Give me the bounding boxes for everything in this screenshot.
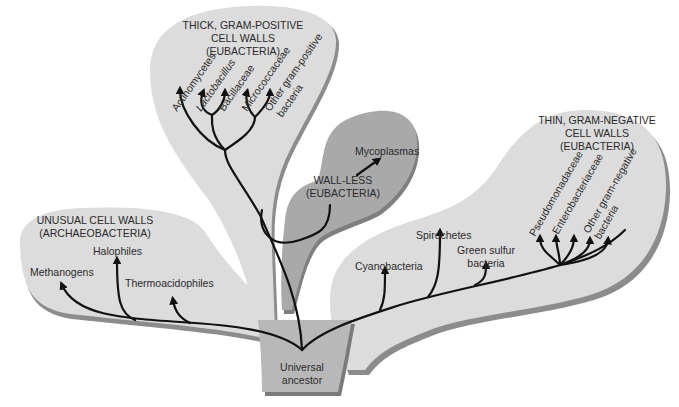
taxon-cyanobacteria: Cyanobacteria: [355, 260, 423, 272]
gram-positive-header-line1: THICK, GRAM-POSITIVE: [183, 19, 304, 31]
wall-less-header-line2: (EUBACTERIA): [306, 187, 380, 199]
taxon-green-sulfur: Green sulfur: [457, 244, 515, 256]
gram-positive-header-line3: (EUBACTERIA): [206, 45, 280, 57]
phylogenetic-tree-diagram: UNUSUAL CELL WALLS (ARCHAEOBACTERIA) Met…: [0, 0, 679, 407]
root-label-line1: Universal: [280, 361, 324, 373]
taxon-methanogens: Methanogens: [30, 266, 94, 278]
taxon-halophiles: Halophiles: [93, 245, 142, 257]
gram-negative-header-line1: THIN, GRAM-NEGATIVE: [538, 114, 656, 126]
archaeobacteria-header: UNUSUAL CELL WALLS (ARCHAEOBACTERIA): [37, 214, 154, 239]
gram-positive-header-line2: CELL WALLS: [211, 32, 275, 44]
taxon-green-sulfur-line2: bacteria: [467, 257, 505, 269]
taxon-thermoacidophiles: Thermoacidophiles: [125, 277, 214, 289]
taxon-spirochetes: Spirochetes: [416, 229, 471, 241]
archaeo-header-line2: (ARCHAEOBACTERIA): [39, 227, 150, 239]
wall-less-header: WALL-LESS (EUBACTERIA): [306, 174, 380, 199]
archaeo-header-line1: UNUSUAL CELL WALLS: [37, 214, 154, 226]
taxon-mycoplasmas: Mycoplasmas: [355, 145, 419, 157]
root-label-line2: ancestor: [282, 374, 323, 386]
wall-less-header-line1: WALL-LESS: [314, 174, 373, 186]
gram-negative-header-line3: (EUBACTERIA): [560, 140, 634, 152]
gram-negative-header-line2: CELL WALLS: [565, 127, 629, 139]
